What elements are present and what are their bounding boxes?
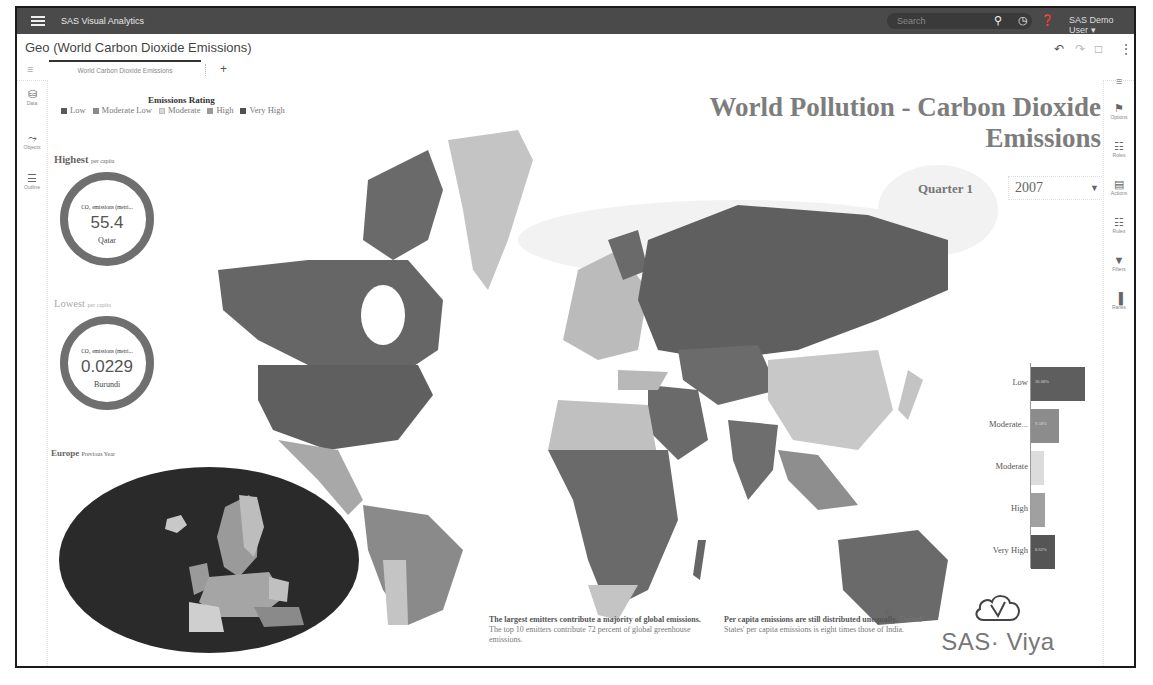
bar-row-low[interactable]: Low 36.68% bbox=[918, 367, 1103, 401]
right-rail: ☰ ⚑ Options ☷ Roles ▤ Actions ☷ Rules ▼ … bbox=[1103, 80, 1134, 666]
app-name: SAS Visual Analytics bbox=[61, 16, 144, 26]
rules-icon: ☷ bbox=[1104, 216, 1134, 228]
legend-swatch bbox=[93, 108, 99, 114]
top-bar: SAS Visual Analytics Search ⚲ ◷ ❓ SAS De… bbox=[17, 8, 1134, 34]
search-input[interactable]: Search bbox=[887, 13, 1032, 29]
help-icon[interactable]: ❓ bbox=[1041, 14, 1053, 26]
note-largest-emitters: The largest emitters contribute a majori… bbox=[489, 615, 704, 645]
bar-moderate[interactable] bbox=[1031, 451, 1044, 485]
legend-swatch bbox=[159, 108, 165, 114]
options-icon: ⚑ bbox=[1104, 102, 1134, 114]
europe-heading: Europe Previous Year bbox=[51, 448, 115, 458]
rail-objects[interactable]: ⤳ Objects bbox=[17, 132, 47, 150]
ranks-icon: ▐ bbox=[1104, 292, 1134, 304]
filter-icon: ▼ bbox=[1104, 254, 1134, 266]
bar-low[interactable]: 36.68% bbox=[1031, 367, 1085, 401]
bar-row-moderate[interactable]: Moderate bbox=[918, 451, 1103, 485]
legend-item-high[interactable]: High bbox=[207, 105, 233, 115]
save-icon[interactable]: □ bbox=[1095, 42, 1102, 56]
rail-options[interactable]: ⚑ Options bbox=[1104, 102, 1134, 120]
chart-icon: ⤳ bbox=[17, 132, 47, 144]
bar-row-high[interactable]: High bbox=[918, 493, 1103, 527]
year-value: 2007 bbox=[1015, 180, 1043, 195]
kpi-measure: CO₂ emissions (metri... bbox=[68, 348, 146, 354]
rail-outline[interactable]: ☰ Outline bbox=[17, 172, 47, 190]
europe-countries bbox=[59, 467, 359, 653]
hamburger-menu-icon[interactable] bbox=[31, 16, 45, 26]
legend-swatch bbox=[61, 108, 67, 114]
app-window: SAS Visual Analytics Search ⚲ ◷ ❓ SAS De… bbox=[15, 6, 1136, 668]
year-dropdown[interactable]: 2007 ▼ bbox=[1008, 176, 1103, 200]
kpi-measure: CO₂ emissions (metri... bbox=[68, 204, 146, 210]
note-per-capita: Per capita emissions are still distribut… bbox=[724, 615, 929, 635]
legend-swatch bbox=[207, 108, 213, 114]
legend-swatch bbox=[240, 108, 246, 114]
legend-item-low[interactable]: Low bbox=[61, 105, 86, 115]
undo-icon[interactable]: ↶ bbox=[1054, 42, 1064, 56]
rail-roles[interactable]: ☷ Roles bbox=[1104, 140, 1134, 158]
bar-row-moderate-low[interactable]: Moderate... 9.58% bbox=[918, 409, 1103, 443]
more-icon[interactable]: ⋮ bbox=[1120, 42, 1132, 56]
highest-kpi-gauge[interactable]: CO₂ emissions (metri... 55.4 Qatar bbox=[60, 172, 154, 266]
rating-bar-chart: Low 36.68% Moderate... 9.58% Moderate Hi… bbox=[918, 363, 1103, 573]
tab-world-carbon-dioxide-emissions[interactable]: World Carbon Dioxide Emissions bbox=[49, 60, 201, 80]
database-icon: ⛁ bbox=[17, 88, 47, 100]
sas-viya-logo: SAS· Viya bbox=[928, 590, 1068, 656]
tab-separator bbox=[205, 64, 207, 76]
report-heading: World Pollution - Carbon Dioxide Emissio… bbox=[601, 92, 1101, 154]
legend-item-very-high[interactable]: Very High bbox=[240, 105, 284, 115]
highest-heading: Highest per capita bbox=[54, 154, 115, 165]
rail-filters[interactable]: ▼ Filters bbox=[1104, 254, 1134, 272]
legend: Low Moderate Low Moderate High Very High bbox=[61, 105, 285, 115]
search-icon[interactable]: ⚲ bbox=[992, 14, 1004, 26]
user-menu[interactable]: SAS Demo User ▾ bbox=[1069, 15, 1134, 35]
kpi-value: 55.4 bbox=[68, 213, 146, 233]
legend-item-moderate[interactable]: Moderate bbox=[159, 105, 201, 115]
recent-icon[interactable]: ◷ bbox=[1017, 14, 1029, 26]
roles-icon: ☷ bbox=[1104, 140, 1134, 152]
outline-icon: ☰ bbox=[17, 172, 47, 184]
rail-collapse[interactable]: ☰ bbox=[1104, 78, 1134, 86]
actions-icon: ▤ bbox=[1104, 178, 1134, 190]
brand-text: SAS· Viya bbox=[928, 628, 1068, 656]
report-title: Geo (World Carbon Dioxide Emissions) bbox=[25, 40, 252, 55]
page-tabs: ☰ World Carbon Dioxide Emissions + bbox=[17, 60, 1134, 81]
bar-high[interactable] bbox=[1031, 493, 1045, 527]
filter-icon[interactable]: ▼ bbox=[883, 608, 891, 617]
title-bar: Geo (World Carbon Dioxide Emissions) ↶ ↷… bbox=[17, 34, 1134, 60]
quarter-label: Quarter 1 bbox=[918, 181, 973, 197]
lowest-kpi-gauge[interactable]: CO₂ emissions (metri... 0.0229 Burundi bbox=[60, 316, 154, 410]
bar-very-high[interactable]: 8.62% bbox=[1031, 535, 1055, 569]
rail-actions[interactable]: ▤ Actions bbox=[1104, 178, 1134, 196]
lowest-heading: Lowest per capita bbox=[54, 298, 111, 309]
rail-rules[interactable]: ☷ Rules bbox=[1104, 216, 1134, 234]
rail-data[interactable]: ⛁ Data bbox=[17, 88, 47, 106]
kpi-value: 0.0229 bbox=[68, 357, 146, 377]
page-menu-icon[interactable]: ☰ bbox=[27, 66, 33, 74]
kpi-country: Burundi bbox=[68, 380, 146, 389]
legend-item-moderate-low[interactable]: Moderate Low bbox=[93, 105, 152, 115]
bar-row-very-high[interactable]: Very High 8.62% bbox=[918, 535, 1103, 569]
europe-map[interactable] bbox=[59, 467, 359, 653]
legend-title: Emissions Rating bbox=[148, 95, 215, 105]
chevron-down-icon: ▼ bbox=[1090, 177, 1099, 199]
rail-ranks[interactable]: ▐ Ranks bbox=[1104, 292, 1134, 310]
cloud-check-icon bbox=[972, 590, 1024, 624]
left-rail: ⛁ Data ⤳ Objects ☰ Outline bbox=[17, 80, 48, 666]
report-canvas: Emissions Rating Low Moderate Low Modera… bbox=[48, 80, 1103, 666]
redo-icon[interactable]: ↷ bbox=[1075, 42, 1085, 56]
kpi-country: Qatar bbox=[68, 236, 146, 245]
bar-moderate-low[interactable]: 9.58% bbox=[1031, 409, 1059, 443]
add-page-button[interactable]: + bbox=[220, 62, 227, 76]
